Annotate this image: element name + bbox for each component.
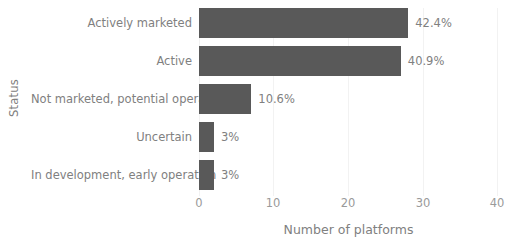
x-tick-label: 10 — [266, 196, 281, 210]
bar — [199, 8, 408, 38]
x-tick-label: 40 — [490, 196, 505, 210]
bar — [199, 84, 251, 114]
x-axis-ticks: 0 10 20 30 40 — [199, 196, 498, 214]
x-tick-label: 20 — [341, 196, 356, 210]
bar-value-label: 40.9% — [401, 46, 445, 76]
x-axis-title: Number of platforms — [199, 222, 498, 237]
bar-value-label: 3% — [214, 160, 239, 190]
category-label: Uncertain — [31, 122, 199, 152]
bar-value-label: 3% — [214, 122, 239, 152]
bar — [199, 46, 401, 76]
category-label: In development, early operation — [31, 160, 199, 190]
category-label: Actively marketed — [31, 8, 199, 38]
x-tick-label: 0 — [195, 196, 202, 210]
y-axis-title-label: Status — [7, 79, 21, 117]
bar — [199, 122, 214, 152]
gridline — [497, 8, 498, 196]
category-label: Active — [31, 46, 199, 76]
bar-chart: Status Actively marketed Active Not mark… — [0, 0, 521, 249]
plot-area: 42.4% 40.9% 10.6% 3% 3% — [199, 8, 498, 196]
bar — [199, 160, 214, 190]
bar-value-label: 10.6% — [251, 84, 295, 114]
category-label: Not marketed, potential operation — [31, 84, 199, 114]
x-tick-label: 30 — [416, 196, 431, 210]
category-axis-labels: Actively marketed Active Not marketed, p… — [24, 8, 199, 196]
bar-value-label: 42.4% — [408, 8, 452, 38]
